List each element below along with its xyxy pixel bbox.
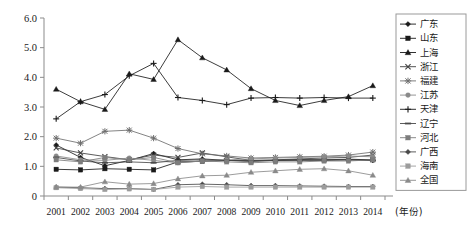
marker-dash bbox=[405, 123, 411, 125]
y-tick-label: 4.0 bbox=[24, 72, 37, 83]
marker-circle bbox=[406, 93, 411, 98]
marker-square bbox=[103, 167, 107, 171]
series-line-福建 bbox=[56, 130, 373, 158]
marker-square bbox=[406, 36, 411, 41]
marker-square bbox=[78, 168, 82, 172]
legend-label: 辽宁 bbox=[420, 118, 438, 129]
marker-circle bbox=[322, 155, 327, 160]
marker-triangle bbox=[102, 179, 108, 184]
marker-square bbox=[224, 185, 228, 189]
marker-circle bbox=[346, 154, 351, 159]
x-tick-label: 2012 bbox=[315, 206, 334, 217]
legend-label: 河北 bbox=[420, 132, 439, 143]
marker-square bbox=[249, 185, 253, 189]
marker-square bbox=[371, 185, 375, 189]
x-tick-label: 2006 bbox=[168, 206, 187, 217]
legend-label: 浙江 bbox=[420, 61, 438, 72]
x-tick-label: 2008 bbox=[217, 206, 236, 217]
legend-label: 广西 bbox=[420, 146, 438, 157]
x-tick-label: 2009 bbox=[241, 206, 260, 217]
marker-square bbox=[151, 155, 155, 159]
x-tick-label: 2011 bbox=[290, 206, 309, 217]
legend-label: 天津 bbox=[420, 103, 438, 114]
marker-square bbox=[54, 167, 58, 171]
legend-label: 福建 bbox=[420, 75, 438, 86]
marker-square bbox=[322, 185, 326, 189]
line-chart: 01.02.03.04.05.06.0200120022003200420052… bbox=[0, 0, 473, 242]
marker-square bbox=[103, 187, 107, 191]
marker-square bbox=[127, 187, 131, 191]
plot-series-group bbox=[53, 37, 376, 192]
legend-label: 全国 bbox=[420, 174, 438, 185]
x-tick-label: 2004 bbox=[120, 206, 139, 217]
x-tick-label: 2002 bbox=[71, 206, 90, 217]
y-tick-label: 5.0 bbox=[24, 42, 37, 53]
chart-canvas: 01.02.03.04.05.06.0200120022003200420052… bbox=[0, 0, 473, 242]
marker-square bbox=[78, 160, 82, 164]
marker-triangle bbox=[200, 55, 206, 60]
y-tick-label: 1.0 bbox=[24, 161, 37, 172]
legend-label: 广东 bbox=[420, 18, 438, 29]
y-tick-label: 0 bbox=[32, 191, 37, 202]
marker-triangle bbox=[248, 86, 254, 91]
x-tick-label: 2013 bbox=[339, 206, 358, 217]
series-天津 bbox=[53, 60, 376, 121]
marker-square bbox=[322, 159, 326, 163]
marker-triangle bbox=[224, 67, 230, 72]
marker-square bbox=[273, 160, 277, 164]
marker-square bbox=[346, 185, 350, 189]
x-tick-label: 2010 bbox=[266, 206, 285, 217]
marker-square bbox=[54, 158, 58, 162]
marker-square bbox=[406, 164, 411, 169]
x-tick-label: 2005 bbox=[144, 206, 163, 217]
marker-triangle bbox=[370, 83, 376, 88]
marker-square bbox=[200, 159, 204, 163]
marker-square bbox=[103, 155, 107, 159]
legend: 广东山东上海浙江福建江苏天津辽宁河北广西海南全国 bbox=[396, 14, 466, 190]
marker-square bbox=[176, 161, 180, 165]
marker-square bbox=[346, 159, 350, 163]
x-axis-ticks: 2001200220032004200520062007200820092010… bbox=[44, 196, 423, 217]
y-tick-label: 2.0 bbox=[24, 131, 37, 142]
marker-square bbox=[127, 167, 131, 171]
marker-square bbox=[298, 185, 302, 189]
marker-square bbox=[200, 184, 204, 188]
legend-label: 上海 bbox=[420, 47, 439, 58]
y-tick-label: 6.0 bbox=[24, 13, 37, 24]
legend-label: 江苏 bbox=[420, 89, 438, 100]
x-tick-label: 2007 bbox=[193, 206, 212, 217]
x-tick-label: 2001 bbox=[47, 206, 66, 217]
marker-dash bbox=[102, 162, 108, 164]
marker-square bbox=[249, 161, 253, 165]
marker-square bbox=[151, 168, 155, 172]
marker-square bbox=[176, 185, 180, 189]
marker-square bbox=[371, 158, 375, 162]
marker-square bbox=[406, 135, 411, 140]
legend-label: 海南 bbox=[420, 160, 438, 171]
series-全国 bbox=[53, 166, 375, 189]
marker-triangle bbox=[175, 37, 181, 42]
y-tick-label: 3.0 bbox=[24, 102, 37, 113]
x-axis-unit-label: (年份) bbox=[395, 206, 423, 217]
marker-square bbox=[298, 160, 302, 164]
marker-square bbox=[273, 185, 277, 189]
marker-square bbox=[224, 160, 228, 164]
legend-label: 山东 bbox=[420, 32, 438, 43]
series-海南 bbox=[54, 184, 375, 191]
series-上海 bbox=[53, 37, 375, 112]
marker-square bbox=[151, 187, 155, 191]
x-tick-label: 2003 bbox=[95, 206, 114, 217]
series-广东 bbox=[54, 142, 376, 168]
y-axis-ticks: 01.02.03.04.05.06.0 bbox=[24, 13, 44, 202]
marker-circle bbox=[297, 155, 302, 160]
marker-triangle bbox=[53, 86, 59, 91]
x-tick-label: 2014 bbox=[363, 206, 382, 217]
marker-square bbox=[127, 158, 131, 162]
series-line-上海 bbox=[56, 40, 373, 110]
marker-dash bbox=[151, 162, 157, 164]
